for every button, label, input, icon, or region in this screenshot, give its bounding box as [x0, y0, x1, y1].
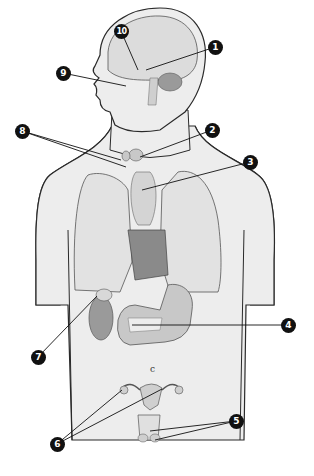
label-1: 1 [208, 40, 223, 55]
label-2: 2 [205, 123, 220, 138]
label-9: 9 [56, 66, 71, 81]
cerebellum [158, 73, 182, 91]
label-10: 10 [114, 24, 129, 39]
thyroid-gland [129, 149, 143, 161]
label-6: 6 [50, 437, 65, 452]
adrenal-gland [96, 289, 112, 301]
ovary-left [120, 386, 128, 394]
left-lung [74, 173, 132, 292]
brainstem [148, 78, 158, 105]
ovary-right [175, 386, 183, 394]
label-8: 8 [15, 124, 30, 139]
label-4: 4 [281, 318, 296, 333]
endocrine-diagram: c 1 2 3 4 5 6 7 8 9 10 [0, 0, 314, 476]
navel: c [150, 364, 155, 374]
label-3: 3 [243, 155, 258, 170]
heart [128, 230, 168, 280]
label-5: 5 [229, 414, 244, 429]
label-7: 7 [31, 350, 46, 365]
kidney [89, 296, 113, 340]
body-illustration: c [0, 0, 314, 476]
thymus [131, 172, 156, 225]
